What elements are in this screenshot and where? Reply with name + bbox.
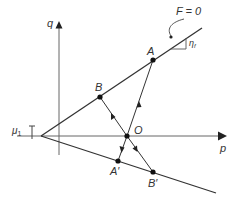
point-O [124,133,129,138]
point-B-label: B [95,81,102,93]
arrow-O-A-icon [137,101,142,108]
point-Aprime [115,158,120,163]
point-A-label: A [146,45,154,57]
curve-label: F = 0 [176,5,202,17]
point-Bprime [150,169,155,174]
p-axis-label: p [219,142,226,154]
lower-yield-line [41,136,216,193]
point-Bprime-label: B′ [148,177,158,189]
segment-O-Bprime [127,136,153,172]
q-axis-arrowhead-icon [56,21,63,29]
curve-label-pointer-tip-icon [169,35,172,38]
upper-yield-line [41,28,202,136]
point-Aprime-label: A′ [109,165,120,177]
q-axis-label: q [47,17,54,29]
point-A [150,57,155,62]
p-axis-arrowhead-icon [218,132,227,141]
point-B [97,94,102,99]
yield-surface-diagram: q p μ1 ηf F = 0 [0,0,239,201]
diagram-canvas: q p μ1 ηf F = 0 [0,0,239,201]
offset-label: μ1 [11,125,21,137]
curve-label-pointer [169,19,184,36]
arrow-O-Aprime-icon [120,146,125,153]
slope-label: ηf [189,38,197,49]
point-O-label: O [134,124,143,136]
